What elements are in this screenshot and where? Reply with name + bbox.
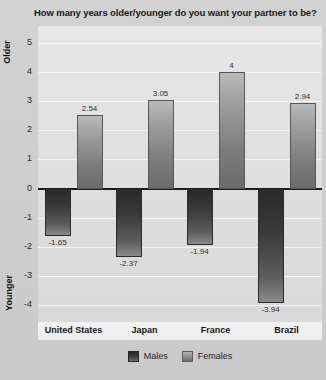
bar-females-japan[interactable] bbox=[148, 100, 174, 189]
y-axis-tick-label: 3 bbox=[6, 95, 32, 105]
bar-value-label: -2.37 bbox=[106, 259, 152, 268]
legend-swatch-females-icon bbox=[182, 351, 193, 362]
category-label-brazil: Brazil bbox=[251, 325, 322, 335]
bar-value-label: -1.65 bbox=[35, 238, 81, 247]
y-axis-tick-label: 4 bbox=[6, 66, 32, 76]
gridline bbox=[38, 72, 322, 73]
bar-females-france[interactable] bbox=[219, 72, 245, 188]
y-axis-tick-label: 1 bbox=[6, 153, 32, 163]
chart-legend: Males Females bbox=[38, 347, 322, 365]
y-axis-tick-label: 2 bbox=[6, 124, 32, 134]
bar-value-label: 2.54 bbox=[67, 104, 113, 113]
bar-females-united-states[interactable] bbox=[77, 115, 103, 189]
y-axis-tick-label: -1 bbox=[6, 212, 32, 222]
chart-title: How many years older/younger do you want… bbox=[34, 7, 322, 18]
y-axis-tick-label: -2 bbox=[6, 241, 32, 251]
category-axis: United StatesJapanFranceBrazil bbox=[38, 322, 322, 340]
bar-males-france[interactable] bbox=[187, 189, 213, 245]
legend-item-females[interactable]: Females bbox=[182, 351, 233, 362]
y-axis-tick-label: -4 bbox=[6, 299, 32, 309]
gridline bbox=[38, 43, 322, 44]
bar-value-label: 3.05 bbox=[138, 89, 184, 98]
gridline bbox=[38, 101, 322, 102]
bar-males-japan[interactable] bbox=[116, 189, 142, 258]
category-label-france: France bbox=[180, 325, 251, 335]
legend-item-males[interactable]: Males bbox=[128, 351, 168, 362]
bar-value-label: -3.94 bbox=[248, 305, 294, 314]
bar-value-label: 4 bbox=[209, 61, 255, 70]
bar-value-label: 2.94 bbox=[280, 92, 326, 101]
bar-males-brazil[interactable] bbox=[258, 189, 284, 303]
bar-females-brazil[interactable] bbox=[290, 103, 316, 188]
category-label-japan: Japan bbox=[109, 325, 180, 335]
bar-males-united-states[interactable] bbox=[45, 189, 71, 237]
chart-container: How many years older/younger do you want… bbox=[0, 0, 326, 380]
bar-value-label: -1.94 bbox=[177, 247, 223, 256]
y-axis-tick-label: 0 bbox=[6, 183, 32, 193]
y-axis-tick-label: -3 bbox=[6, 270, 32, 280]
legend-swatch-males-icon bbox=[128, 351, 139, 362]
plot-area: -1.652.54-2.373.05-1.944-3.942.94 bbox=[38, 26, 322, 322]
category-label-united-states: United States bbox=[38, 325, 109, 335]
legend-label-females: Females bbox=[198, 351, 233, 361]
y-axis-tick-label: 5 bbox=[6, 37, 32, 47]
legend-label-males: Males bbox=[144, 351, 168, 361]
